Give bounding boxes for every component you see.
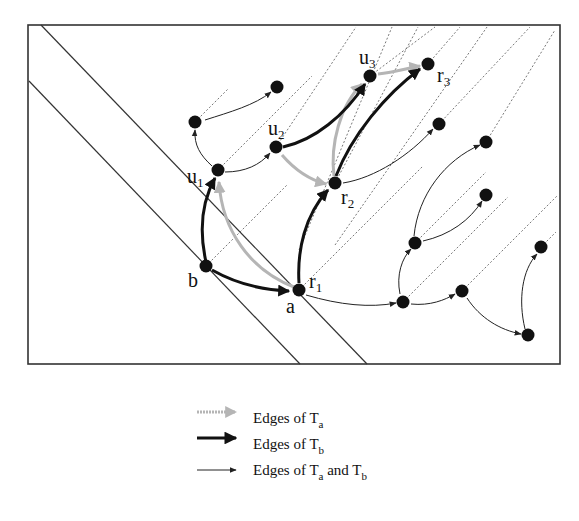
shared-edge: [399, 249, 411, 294]
legend-label-tb: Edges of Tb: [253, 436, 325, 456]
label-r3: r3: [437, 64, 450, 89]
node-n7: [397, 296, 410, 309]
label-a: a: [286, 295, 295, 317]
node-u1: [212, 164, 225, 177]
shared-edge: [411, 294, 455, 304]
legend: Edges of Ta Edges of Tb Edges of Ta and …: [197, 410, 368, 482]
label-b: b: [188, 269, 198, 291]
nodes: [189, 58, 548, 342]
shared-edge: [306, 295, 396, 305]
label-u1: u1: [187, 165, 204, 190]
label-u2: u2: [268, 117, 285, 142]
shared-edges: [195, 92, 537, 334]
tb-edge: [202, 178, 215, 262]
ta-edge: [282, 155, 326, 184]
dotted-line: [428, 27, 460, 64]
node-n4: [480, 136, 493, 149]
node-b: [200, 260, 213, 273]
shared-edge: [225, 153, 270, 172]
dotted-line: [415, 172, 486, 243]
node-n2: [271, 81, 284, 94]
boundary-lines: [29, 25, 367, 364]
ta-edge: [333, 84, 362, 176]
shared-edge: [423, 201, 482, 241]
dotted-line: [218, 76, 312, 170]
label-u3: u3: [359, 46, 376, 71]
node-n9: [535, 241, 548, 254]
node-n5: [480, 189, 493, 202]
node-n1: [189, 116, 202, 129]
dotted-line: [486, 30, 555, 142]
legend-item-ta-tb: Edges of Ta and Tb: [197, 462, 368, 482]
ta-edges: [219, 66, 420, 287]
tree-diagram: bar1u1u2r2u3r3 Edges of Ta Edges of Tb E…: [0, 0, 579, 521]
tb-edge: [336, 69, 420, 176]
dotted-line: [439, 27, 530, 124]
node-r2: [329, 177, 342, 190]
shared-edge: [414, 145, 480, 236]
dotted-line: [276, 27, 356, 147]
dotted-diagonals: [195, 27, 557, 302]
node-u2: [270, 141, 283, 154]
legend-item-tb: Edges of Tb: [197, 436, 325, 456]
node-r3: [422, 58, 435, 71]
dotted-line: [299, 27, 392, 250]
shared-edge: [467, 298, 521, 334]
node-n8: [456, 285, 469, 298]
boundary-line: [41, 25, 367, 364]
node-n3: [433, 118, 446, 131]
boundary-line: [29, 81, 300, 364]
ta-edge: [219, 182, 294, 287]
label-r1: r1: [309, 270, 322, 295]
node-n6: [409, 237, 422, 250]
dotted-line: [299, 166, 423, 290]
legend-label-ta-tb: Edges of Ta and Tb: [253, 462, 368, 482]
label-r2: r2: [341, 186, 354, 211]
node-u3: [364, 70, 377, 83]
shared-edge: [205, 92, 271, 120]
node-n10: [522, 329, 535, 342]
shared-edge: [195, 130, 212, 166]
legend-label-ta: Edges of Ta: [253, 410, 324, 430]
legend-item-ta: Edges of Ta: [197, 410, 324, 430]
shared-edge: [522, 254, 537, 329]
dotted-line: [195, 89, 228, 122]
